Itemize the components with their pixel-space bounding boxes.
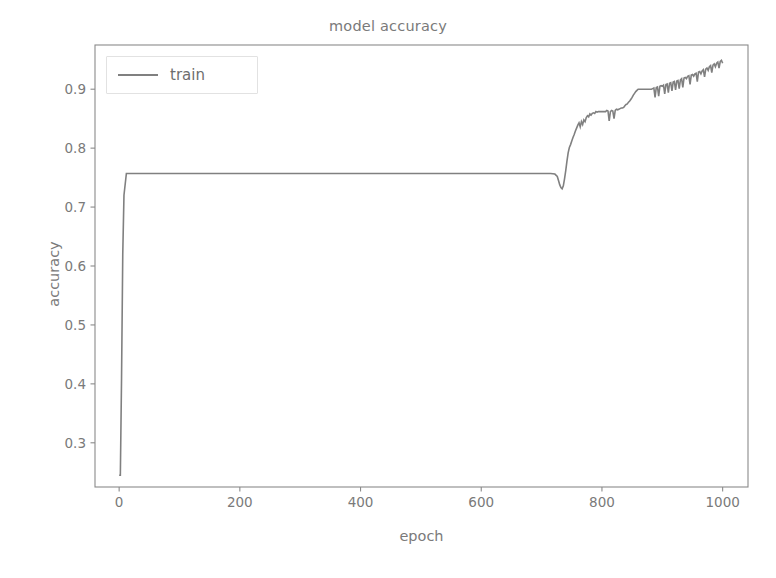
x-tick-label: 1000 [705, 494, 739, 510]
y-tick-label: 0.8 [65, 140, 86, 156]
x-tick-label: 800 [589, 494, 615, 510]
y-tick-label: 0.7 [65, 199, 86, 215]
x-tick-label: 600 [468, 494, 494, 510]
data-lines [119, 60, 723, 475]
chart-figure: model accuracy epoch accuracy 0200400600… [0, 0, 776, 578]
y-axis-label: accuracy [46, 214, 62, 334]
axes-spines [95, 45, 748, 487]
axis-ticks [91, 89, 723, 491]
y-tick-label: 0.5 [65, 317, 86, 333]
y-tick-label: 0.4 [65, 376, 86, 392]
y-tick-label: 0.9 [65, 81, 86, 97]
x-tick-label: 200 [227, 494, 253, 510]
y-tick-label: 0.3 [65, 435, 86, 451]
y-tick-label: 0.6 [65, 258, 86, 274]
x-axis-label: epoch [95, 528, 748, 544]
data-line-train [119, 60, 723, 475]
chart-legend: train [106, 56, 258, 94]
x-tick-label: 0 [115, 494, 124, 510]
x-tick-label: 400 [348, 494, 374, 510]
legend-entry-train: train [107, 57, 257, 93]
legend-label-train: train [170, 66, 205, 84]
legend-line-swatch-train [118, 74, 158, 76]
